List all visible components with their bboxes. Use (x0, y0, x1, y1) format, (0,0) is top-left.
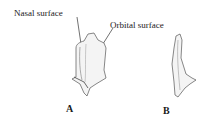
panel-b-label: B (163, 106, 170, 116)
bone-illustration (0, 0, 214, 122)
nasal-surface-label: Nasal surface (14, 9, 63, 18)
panel-a-label: A (66, 104, 73, 114)
orbital-surface-label: Orbital surface (110, 21, 164, 30)
bone-a-drawing (72, 33, 106, 96)
bone-b-drawing (172, 34, 196, 97)
nasal-leader-line (77, 17, 81, 44)
